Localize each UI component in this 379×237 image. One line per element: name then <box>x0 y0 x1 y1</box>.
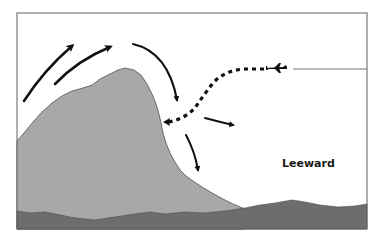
leeward-label: Leeward <box>282 157 335 170</box>
mountain-wave-diagram: Leeward <box>0 0 379 237</box>
